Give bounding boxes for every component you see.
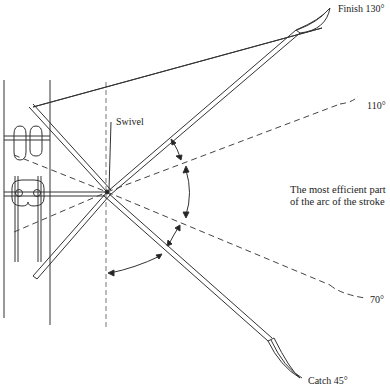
arc-arrow-efficient <box>183 166 190 218</box>
arc-arrow-catch-side <box>167 225 180 246</box>
oar-finish <box>33 28 322 107</box>
arc-arrow-finish <box>171 139 182 160</box>
swivel-pointer <box>109 122 111 190</box>
arc-arrow-catch <box>108 254 162 276</box>
dashed-oar-110 <box>14 96 358 192</box>
seat-pad-left <box>14 126 26 160</box>
seat-pad-right <box>30 126 42 156</box>
label-efficient-line2: of the arc of the stroke <box>290 196 385 208</box>
label-finish: Finish 130° <box>338 3 385 14</box>
label-efficient-line1: The most efficient part <box>290 184 386 196</box>
label-110: 110° <box>367 100 386 111</box>
label-70: 70° <box>370 294 384 305</box>
footrest <box>12 180 44 206</box>
label-catch: Catch 45° <box>308 375 348 386</box>
label-swivel: Swivel <box>116 116 144 127</box>
